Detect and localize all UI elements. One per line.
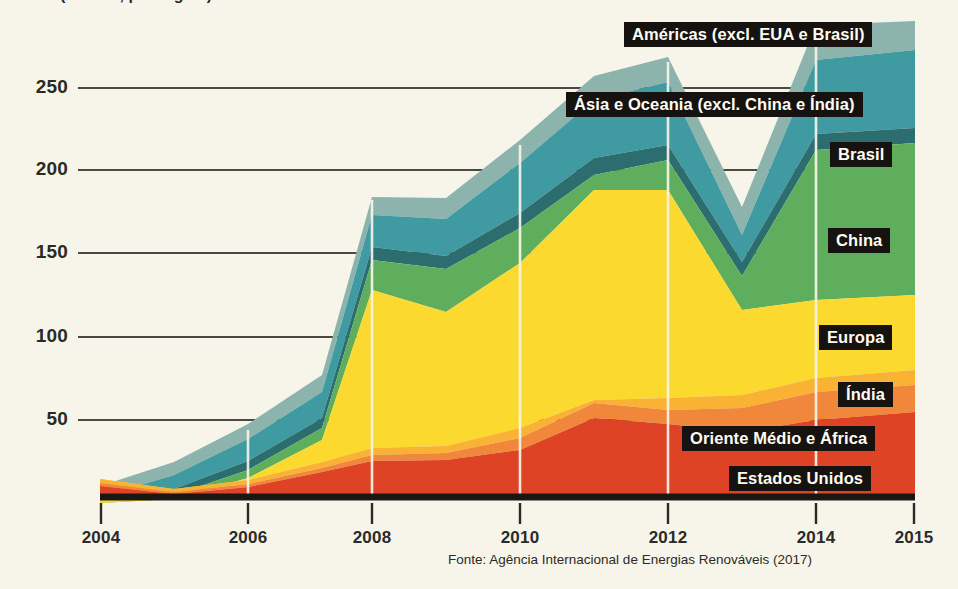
source-note: Fonte: Agência Internacional de Energias… [448, 552, 812, 567]
x-tick-2010: 2010 [485, 528, 555, 548]
x-tick-2006: 2006 [213, 528, 283, 548]
y-tick-50: 50 [8, 408, 68, 430]
series-label-eua: Estados Unidos [729, 466, 871, 491]
y-tick-200: 200 [8, 158, 68, 180]
x-tick-marks [101, 503, 914, 524]
chart-container: 250 200 150 100 50 2004 2006 2008 2010 2… [0, 0, 958, 589]
series-label-asia-oceania: Ásia e Oceania (excl. China e Índia) [566, 92, 863, 117]
series-label-china: China [828, 228, 890, 253]
x-tick-2004: 2004 [66, 528, 136, 548]
x-tick-2008: 2008 [337, 528, 407, 548]
series-label-india: Índia [838, 382, 893, 407]
x-tick-2015: 2015 [879, 528, 949, 548]
stacked-area-chart [0, 0, 958, 589]
series-label-brasil: Brasil [830, 142, 892, 167]
series-label-americas: Américas (excl. EUA e Brasil) [624, 22, 872, 47]
x-tick-2014: 2014 [781, 528, 851, 548]
chart-title: (em GW, por região) [60, 0, 212, 4]
y-tick-250: 250 [8, 76, 68, 98]
y-tick-100: 100 [8, 325, 68, 347]
series-label-oriente: Oriente Médio e África [682, 426, 875, 451]
x-tick-2012: 2012 [633, 528, 703, 548]
y-tick-150: 150 [8, 241, 68, 263]
series-label-europa: Europa [819, 325, 892, 350]
